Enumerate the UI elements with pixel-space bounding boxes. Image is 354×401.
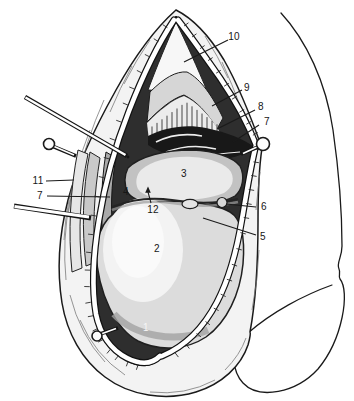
callout-6: 6 — [261, 202, 267, 212]
callout-11: 11 — [33, 176, 44, 186]
callout-7-left: 7 — [37, 191, 43, 201]
callout-3: 3 — [181, 169, 187, 179]
callout-12: 12 — [147, 205, 159, 215]
callout-5: 5 — [260, 232, 266, 242]
callout-8: 8 — [258, 102, 264, 112]
callout-labels: 10 9 8 7 11 7 4 3 12 6 5 2 1 — [0, 0, 354, 401]
anatomical-figure: 10 9 8 7 11 7 4 3 12 6 5 2 1 — [0, 0, 354, 401]
callout-4: 4 — [123, 187, 129, 197]
callout-9: 9 — [244, 83, 250, 93]
callout-10: 10 — [228, 32, 240, 42]
callout-1: 1 — [143, 323, 149, 333]
callout-2: 2 — [154, 244, 160, 254]
callout-7-right: 7 — [264, 117, 270, 127]
